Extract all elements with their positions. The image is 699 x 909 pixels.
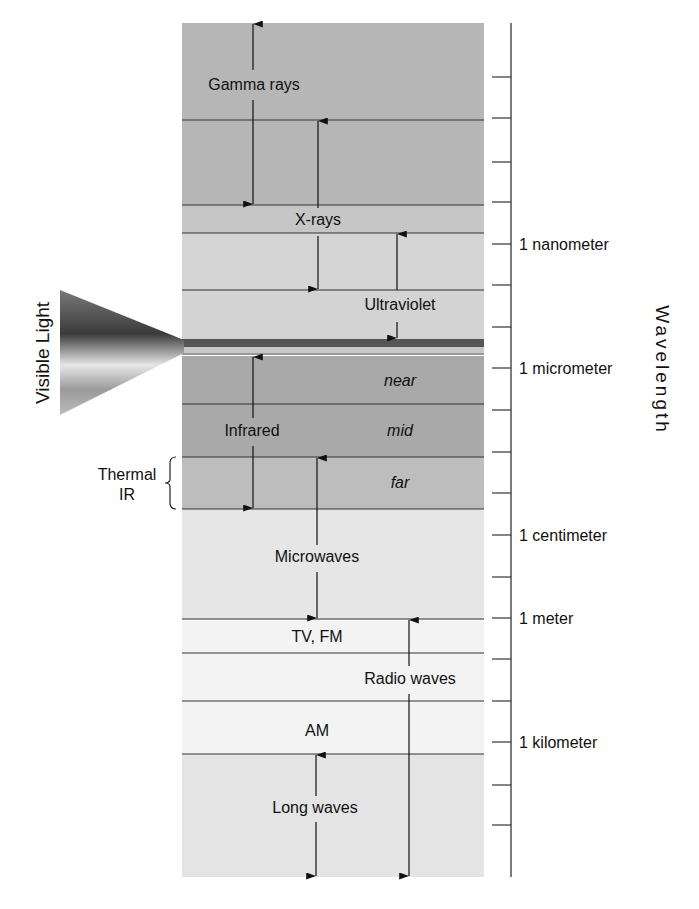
label-gamma: Gamma rays: [208, 76, 300, 93]
label-infrared: Infrared: [224, 422, 279, 439]
band-am: [182, 701, 484, 754]
label-uv: Ultraviolet: [364, 296, 436, 313]
axis-tick-label: 1 centimeter: [519, 527, 608, 544]
visible-light-stripe: [182, 339, 484, 353]
thermal-ir-label-line2: IR: [119, 486, 135, 503]
label-xrays: X-rays: [295, 211, 341, 228]
visible-stripe-dark: [182, 339, 484, 347]
label-microwaves: Microwaves: [275, 548, 359, 565]
electromagnetic-spectrum-diagram: Gamma raysX-raysUltravioletnearInfraredm…: [0, 0, 699, 909]
thermal-ir-label-line1: Thermal: [98, 466, 157, 483]
label-far: far: [391, 474, 410, 491]
thermal-ir-bracket: ThermalIR: [98, 457, 176, 509]
label-longwaves: Long waves: [272, 799, 357, 816]
axis-tick-label: 1 micrometer: [519, 360, 613, 377]
label-radio: Radio waves: [364, 670, 456, 687]
band-gamma-xray-upper: [182, 23, 484, 205]
band-uv-upper: [182, 233, 484, 290]
visible-light-title: Visible Light: [32, 301, 53, 404]
visible-stripe-light: [182, 347, 484, 353]
visible-light-cone: [60, 290, 184, 415]
axis-tick-label: 1 nanometer: [519, 236, 610, 253]
spectrum-bands: [182, 23, 484, 877]
label-near: near: [384, 372, 417, 389]
wavelength-axis: 1 nanometer1 micrometer1 centimeter1 met…: [492, 23, 613, 877]
label-mid: mid: [387, 422, 414, 439]
label-am: AM: [305, 722, 329, 739]
axis-tick-label: 1 meter: [519, 610, 574, 627]
wavelength-axis-title: Wavelength: [652, 305, 673, 435]
axis-tick-label: 1 kilometer: [519, 734, 598, 751]
curly-brace-icon: [165, 457, 176, 509]
band-ir-far: [182, 457, 484, 509]
label-tvfm: TV, FM: [292, 628, 343, 645]
prism-cone-icon: [60, 290, 184, 415]
band-uv-lower: [182, 290, 484, 339]
band-ir-near: [182, 356, 484, 404]
